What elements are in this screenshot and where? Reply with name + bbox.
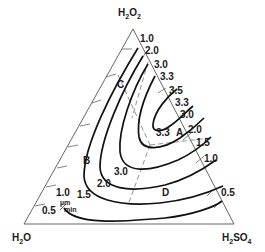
svg-text:1.0: 1.0 — [140, 33, 154, 44]
region-b: B — [83, 155, 90, 166]
region-d: D — [162, 187, 169, 198]
right-edge-labels: 1.0 2.0 3.0 3.3 3.5 3.3 3.0 2.0 1.5 1.0 … — [140, 33, 235, 198]
svg-text:0.5: 0.5 — [42, 205, 56, 216]
left-edge-ticks — [35, 49, 132, 206]
vertex-bottom-right-label: H2SO4 — [222, 232, 252, 245]
svg-text:3.0: 3.0 — [114, 166, 128, 177]
vertex-bottom-left-label: H2O — [12, 232, 31, 245]
svg-text:2.0: 2.0 — [145, 45, 159, 56]
svg-text:3.3: 3.3 — [160, 71, 174, 82]
svg-text:3.0: 3.0 — [154, 59, 168, 70]
svg-text:1.5: 1.5 — [77, 189, 91, 200]
region-c: C — [117, 79, 124, 90]
svg-text:3.3: 3.3 — [175, 97, 189, 108]
svg-text:1.0: 1.0 — [204, 153, 218, 164]
vertex-top-label: H2O2 — [118, 7, 141, 20]
svg-text:0.5: 0.5 — [221, 187, 235, 198]
svg-text:2.0: 2.0 — [188, 124, 202, 135]
svg-text:min: min — [64, 206, 76, 213]
svg-text:3.5: 3.5 — [169, 85, 183, 96]
svg-text:1.5: 1.5 — [196, 137, 210, 148]
svg-text:3.3: 3.3 — [156, 127, 170, 138]
ternary-diagram: H2O2 H2O H2SO4 1.0 2.0 3.0 3.3 3.5 3.3 3… — [0, 0, 265, 252]
svg-text:2.0: 2.0 — [97, 178, 111, 189]
svg-text:1.0: 1.0 — [56, 187, 70, 198]
region-a: A — [176, 127, 183, 138]
svg-text:3.0: 3.0 — [180, 109, 194, 120]
unit-label: µm min — [60, 199, 76, 213]
